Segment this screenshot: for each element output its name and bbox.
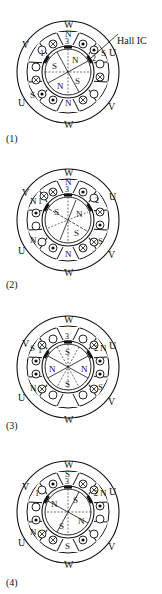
pole-upper-right: N	[100, 343, 107, 353]
stator-label-lower-left: U	[18, 392, 26, 403]
stator-label-upper-left: V	[22, 481, 30, 492]
pole-lower-right: S	[98, 382, 103, 392]
stator-label-top: W	[64, 314, 74, 325]
pole-bottom: N	[65, 249, 72, 259]
sensor-1-label: 1	[40, 49, 44, 58]
rotor-pole-1: S	[52, 61, 57, 71]
stator-label-upper-left: V	[22, 338, 30, 349]
rotor-pole-2: N	[81, 364, 88, 374]
sensor-2-label: 2	[92, 54, 96, 63]
rotor-pole-2: N	[72, 55, 79, 65]
pole-bottom: S	[65, 541, 70, 551]
sensor-1-label: 1	[38, 346, 42, 355]
sensor-2-label: 2	[94, 344, 98, 353]
stator-label-lower-left: U	[18, 537, 26, 548]
rotor-pole-2: N	[76, 209, 83, 219]
pole-lower-left: N	[30, 235, 37, 245]
rotor-pole-3: S	[75, 76, 80, 86]
rotor-pole-4: N	[57, 81, 64, 91]
stator-label-upper-right: U	[109, 486, 117, 497]
stator-label-lower-right: V	[108, 541, 116, 552]
panel-caption: (1)	[6, 133, 18, 144]
sensor-1-label: 1	[38, 197, 42, 206]
stator-label-upper-left: V	[22, 187, 30, 198]
sensor-2-label: 2	[94, 489, 98, 498]
rotor-pole-2: S	[73, 495, 78, 505]
stator-label-upper-right: U	[109, 47, 117, 58]
pole-upper-left: N	[30, 196, 37, 206]
sensor-1-label: 1	[35, 489, 39, 498]
stator-label-bottom: W	[64, 559, 74, 570]
stator-label-bottom: W	[64, 414, 74, 425]
stator-label-lower-right: V	[108, 249, 116, 260]
rotor-pole-1: S	[54, 207, 59, 217]
pole-upper-right: N	[100, 488, 107, 498]
rotor-pole-1: S	[65, 347, 70, 357]
pole-upper-right: S	[101, 48, 106, 58]
stator-label-upper-left: V	[22, 39, 30, 50]
rotor-pole-4: N	[49, 364, 56, 374]
stator-label-lower-right: V	[108, 101, 116, 112]
sensor-3-label: 3	[65, 477, 69, 486]
motor-diagram-3: W W V U U V 3 S 1 2 N N S S N S N (3)	[0, 307, 162, 455]
pole-bottom: N	[65, 98, 72, 108]
rotor-pole-1: N	[51, 499, 58, 509]
pole-upper-left: S	[30, 343, 35, 353]
sensor-3-label: 3	[65, 332, 69, 341]
rotor-pole-3: S	[65, 379, 70, 389]
stator-label-lower-right: V	[108, 396, 116, 407]
hall-ic-label: Hall IC	[117, 35, 147, 46]
stator-label-bottom: W	[64, 119, 74, 130]
stator-label-bottom: W	[64, 267, 74, 278]
pole-lower-left: N	[30, 527, 37, 537]
rotor-pole-4: S	[59, 521, 64, 531]
sensor-2-label: 2	[95, 196, 99, 205]
stator-label-lower-left: U	[18, 245, 26, 256]
panel-caption: (4)	[6, 577, 18, 588]
rotor-pole-3: S	[74, 228, 79, 238]
pole-lower-left: N	[30, 383, 37, 393]
panel-caption: (3)	[6, 420, 18, 431]
stator-label-lower-left: U	[18, 97, 26, 108]
stator-label-upper-right: U	[109, 191, 117, 202]
stator-label-upper-right: U	[109, 340, 117, 351]
rotor-pole-3: N	[78, 516, 85, 526]
sensor-3-label: 3	[65, 185, 69, 194]
cropped-header-text	[2, 0, 112, 3]
motor-diagram-4: W W V U U V S 3 1 2 N N S N S N S (4)	[0, 452, 162, 594]
sensor-3-label: 3	[65, 37, 69, 46]
pole-lower-left: S	[30, 90, 35, 100]
panel-caption: (2)	[6, 279, 18, 290]
pole-lower-right: S	[98, 236, 103, 246]
motor-diagram-2: W W V U U V N 3 N 1 2 N S N S N S (2)	[0, 160, 162, 308]
